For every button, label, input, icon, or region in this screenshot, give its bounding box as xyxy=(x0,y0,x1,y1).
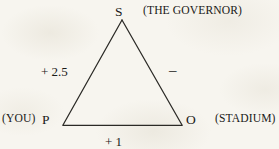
vertex-label-o: O xyxy=(186,113,196,127)
edge-label-po: + 1 xyxy=(105,135,122,148)
vertex-label-s: S xyxy=(115,5,123,19)
vertex-annotation-stadium: (STADIUM) xyxy=(215,113,276,125)
vertex-annotation-governor: (THE GOVERNOR) xyxy=(143,5,242,17)
edge-line-ps xyxy=(63,20,122,125)
vertex-label-p: P xyxy=(42,113,50,127)
vertex-annotation-you: (YOU) xyxy=(2,113,35,125)
edge-label-so: – xyxy=(169,63,177,78)
edge-label-ps: + 2.5 xyxy=(41,65,68,78)
diagram-figure: S P O (THE GOVERNOR) (YOU) (STADIUM) + 2… xyxy=(0,0,279,149)
